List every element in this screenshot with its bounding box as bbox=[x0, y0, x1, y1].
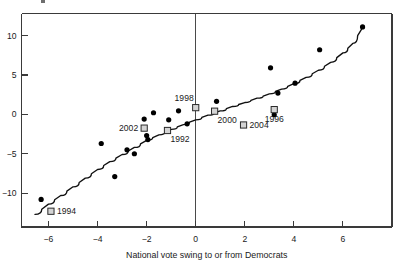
marker-label: 1998 bbox=[175, 93, 194, 103]
labeled-marker bbox=[271, 107, 277, 113]
y-tick-label: −5 bbox=[7, 149, 17, 159]
x-tick-label: −6 bbox=[44, 234, 54, 244]
marker-label: 1994 bbox=[57, 206, 76, 216]
marker-label: 2002 bbox=[119, 123, 138, 133]
x-tick-label: 6 bbox=[341, 234, 346, 244]
data-point bbox=[317, 47, 322, 52]
y-tick-label: 10 bbox=[7, 31, 17, 41]
marker-label: 1996 bbox=[265, 114, 284, 124]
data-point bbox=[185, 121, 190, 126]
labeled-marker bbox=[193, 105, 199, 111]
marker-label: 1992 bbox=[170, 134, 189, 144]
data-point bbox=[145, 137, 150, 142]
scatter-plot-svg: −10−50510−6−4−20246National vote swing t… bbox=[0, 0, 406, 269]
data-point bbox=[124, 147, 129, 152]
x-tick-label: −2 bbox=[142, 234, 152, 244]
x-tick-label: 4 bbox=[291, 234, 296, 244]
data-point bbox=[166, 117, 171, 122]
chart-figure: −10−50510−6−4−20246National vote swing t… bbox=[0, 0, 406, 269]
labeled-marker bbox=[141, 125, 147, 131]
trend-curve bbox=[35, 28, 363, 215]
data-point bbox=[142, 116, 147, 121]
data-point bbox=[176, 108, 181, 113]
y-tick-label: 0 bbox=[12, 109, 17, 119]
y-tick-label: −10 bbox=[2, 188, 17, 198]
labeled-marker bbox=[240, 122, 246, 128]
data-point bbox=[39, 197, 44, 202]
data-point bbox=[112, 174, 117, 179]
labeled-marker bbox=[212, 108, 218, 114]
y-tick-label: 5 bbox=[12, 70, 17, 80]
data-point bbox=[214, 99, 219, 104]
labeled-marker bbox=[48, 208, 54, 214]
data-point bbox=[292, 81, 297, 86]
data-point bbox=[275, 90, 280, 95]
x-tick-label: −4 bbox=[93, 234, 103, 244]
data-point bbox=[151, 110, 156, 115]
data-point bbox=[360, 24, 365, 29]
x-axis-title: National vote swing to or from Democrats bbox=[126, 250, 288, 260]
data-point bbox=[132, 151, 137, 156]
cropped-text-fragment bbox=[41, 0, 45, 3]
x-tick-label: 0 bbox=[193, 234, 198, 244]
axis-frame bbox=[22, 14, 393, 228]
data-point bbox=[99, 141, 104, 146]
labeled-marker bbox=[164, 127, 170, 133]
data-point bbox=[268, 65, 273, 70]
marker-label: 2000 bbox=[218, 115, 237, 125]
x-tick-label: 2 bbox=[242, 234, 247, 244]
